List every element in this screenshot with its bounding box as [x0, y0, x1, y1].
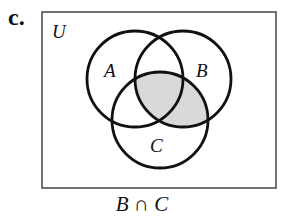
set-label-b: B — [196, 60, 208, 81]
set-label-a: A — [102, 60, 116, 81]
venn-diagram: U A B C — [0, 0, 284, 219]
figure-caption: B ∩ C — [0, 192, 284, 217]
set-label-c: C — [150, 135, 163, 156]
universe-label: U — [52, 21, 67, 42]
